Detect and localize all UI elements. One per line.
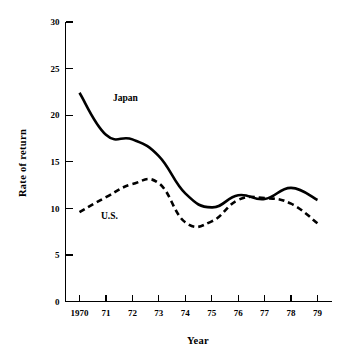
x-tick-label: 78 xyxy=(287,308,297,318)
chart-axes xyxy=(66,22,332,302)
x-tick-label: 71 xyxy=(101,308,111,318)
rate-of-return-line-chart: 051015202530 1970717273747576777879 Japa… xyxy=(0,0,354,357)
y-tick-label: 25 xyxy=(51,64,61,74)
chart-series xyxy=(80,93,318,227)
y-tick-label: 5 xyxy=(55,250,60,260)
series-line-japan xyxy=(80,93,318,208)
x-tick-label: 76 xyxy=(234,308,244,318)
series-annotation-japan: Japan xyxy=(113,93,139,103)
x-tick-label: 77 xyxy=(260,308,270,318)
y-tick-label: 20 xyxy=(51,110,61,120)
series-annotation-us: U.S. xyxy=(101,211,118,221)
chart-figure: 051015202530 1970717273747576777879 Japa… xyxy=(0,0,354,357)
x-axis-title: Year xyxy=(187,335,209,346)
x-tick-label: 72 xyxy=(128,308,138,318)
x-tick-label: 75 xyxy=(207,308,217,318)
y-tick-label: 30 xyxy=(51,17,61,27)
x-axis-ticks xyxy=(80,295,318,302)
y-axis-ticks xyxy=(66,22,73,302)
x-tick-label: 74 xyxy=(181,308,191,318)
x-tick-label: 79 xyxy=(313,308,323,318)
x-tick-label: 73 xyxy=(154,308,164,318)
x-tick-label: 1970 xyxy=(71,308,90,318)
y-tick-label: 10 xyxy=(51,204,61,214)
y-tick-label: 0 xyxy=(55,297,60,307)
y-axis-title: Rate of return xyxy=(17,129,28,197)
y-axis-tick-labels: 051015202530 xyxy=(51,17,61,307)
y-tick-label: 15 xyxy=(51,157,61,167)
x-axis-tick-labels: 1970717273747576777879 xyxy=(71,308,323,318)
